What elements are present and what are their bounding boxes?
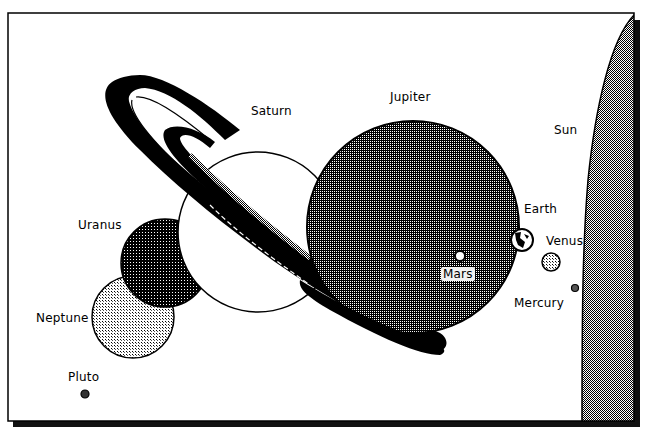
saturn-label: Saturn [251, 104, 292, 118]
neptune-label: Neptune [36, 311, 89, 325]
jupiter-shape [307, 121, 519, 333]
earth-shape [511, 229, 533, 251]
jupiter-label: Jupiter [390, 90, 431, 104]
mars-shape [455, 251, 465, 261]
mercury-label: Mercury [514, 296, 564, 310]
frame-shadow [13, 421, 640, 427]
uranus-label: Uranus [78, 218, 122, 232]
pluto-shape [81, 390, 89, 398]
venus-shape [542, 253, 560, 271]
sun-label: Sun [554, 123, 577, 137]
venus-label: Venus [546, 234, 583, 248]
pluto-label: Pluto [68, 370, 99, 384]
frame-shadow-right [634, 20, 640, 427]
mercury-shape [572, 285, 579, 292]
mars-label: Mars [441, 267, 475, 281]
earth-label: Earth [524, 202, 557, 216]
